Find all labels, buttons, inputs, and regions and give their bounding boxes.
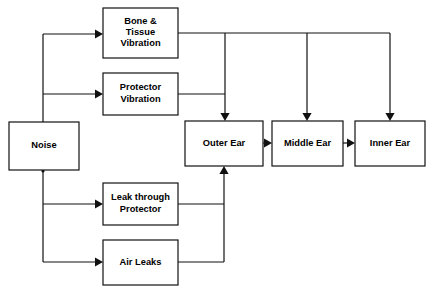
arrow-head-icon [95,29,103,38]
node-inner-ear[interactable]: Inner Ear [355,121,425,166]
edge-middle-ear-to-inner-ear [343,138,355,147]
edge-bus-to-outer-ear [220,33,229,121]
node-air-leaks[interactable]: Air Leaks [103,240,178,285]
node-label-inner-ear: Inner Ear [370,138,411,148]
arrow-head-icon [347,138,355,147]
node-middle-ear[interactable]: Middle Ear [272,121,343,166]
edge-riser-to-outer-ear [219,166,228,262]
node-protector-vibration[interactable]: ProtectorVibration [103,73,178,115]
node-bone-tissue-vibration[interactable]: Bone &TissueVibration [103,8,178,58]
node-outer-ear[interactable]: Outer Ear [185,121,263,166]
edge-bus-to-middle-ear [302,33,311,121]
node-leak-through-protector[interactable]: Leak throughProtector [103,183,178,225]
node-label-outer-ear: Outer Ear [203,138,246,148]
node-label-air-leaks: Air Leaks [120,257,162,267]
arrow-head-icon [95,199,103,208]
node-label-noise: Noise [31,140,56,150]
edge-noise-to-leak-through-protector [43,199,103,208]
arrow-head-icon [219,166,228,174]
edge-noise-to-bone-tissue-vibration [43,29,103,38]
node-noise[interactable]: Noise [9,122,79,170]
arrow-head-icon [220,113,229,121]
arrow-head-icon [385,113,394,121]
flowchart-canvas: NoiseBone &TissueVibrationProtectorVibra… [0,0,432,295]
node-label-protector-vibration: ProtectorVibration [120,83,162,104]
arrow-head-icon [95,257,103,266]
edge-outer-ear-to-middle-ear [263,138,272,147]
arrow-head-icon [264,138,272,147]
edge-bus-to-inner-ear [385,33,394,121]
edge-noise-to-protector-vibration [43,89,103,98]
nodes-layer: NoiseBone &TissueVibrationProtectorVibra… [9,8,425,285]
edge-noise-to-air-leaks [43,257,103,266]
node-label-bone-tissue-vibration: Bone &TissueVibration [120,16,160,48]
node-label-middle-ear: Middle Ear [284,138,331,148]
flowchart-diagram: NoiseBone &TissueVibrationProtectorVibra… [0,0,432,295]
arrow-head-icon [95,89,103,98]
arrow-head-icon [302,113,311,121]
